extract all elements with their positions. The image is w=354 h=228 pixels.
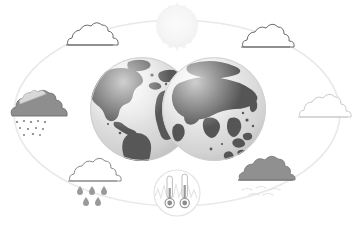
globe-eastern-hemisphere	[162, 57, 266, 161]
thermometer-badge	[154, 170, 200, 216]
illustration-canvas: Global Weather and Climate Illustration …	[0, 0, 354, 228]
cloud-right-icon	[298, 94, 351, 117]
sun-icon	[156, 2, 197, 52]
cloud-top-left-icon	[66, 23, 118, 45]
cloud-top-right-icon	[241, 24, 294, 47]
cloud-bottom-right-wind-icon	[238, 156, 295, 195]
cloud-left-snow-icon	[11, 90, 67, 136]
snow-particles-icon	[16, 120, 46, 136]
weather-climate-illustration	[0, 0, 354, 228]
